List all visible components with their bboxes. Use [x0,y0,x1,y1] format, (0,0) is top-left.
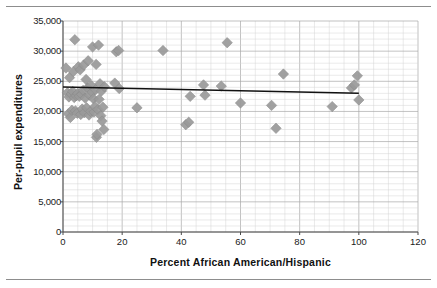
data-point-marker [327,101,337,111]
data-point-marker [278,69,288,79]
data-layer [63,21,418,232]
y-tick-label: 5,000 [9,197,61,207]
y-tick-label: 15,000 [9,137,61,147]
plot-area [63,21,418,232]
data-point-marker [70,34,80,44]
top-divider-rule [6,6,431,7]
data-point-marker [222,38,232,48]
data-point-marker [266,100,276,110]
data-point-marker [198,80,208,90]
trendline [63,87,359,93]
data-point-marker [132,103,142,113]
x-tick-label: 40 [161,236,201,247]
y-tick-label: 30,000 [9,46,61,56]
x-axis-tick-labels: 020406080100120 [63,236,437,250]
x-axis-title: Percent African American/Hispanic [63,256,418,268]
bottom-divider-rule [6,279,431,280]
x-tick-label: 100 [339,236,379,247]
y-tick-label: 10,000 [9,167,61,177]
y-tick-label: 20,000 [9,106,61,116]
x-tick-label: 0 [43,236,83,247]
x-tick-label: 60 [221,236,261,247]
y-tick-label: 35,000 [9,16,61,26]
x-tick-label: 120 [398,236,437,247]
x-tick-label: 80 [280,236,320,247]
data-point-marker [352,71,362,81]
y-tick-label: 25,000 [9,76,61,86]
plot-wrapper [63,21,418,232]
data-point-marker [158,45,168,55]
x-tick-label: 20 [102,236,142,247]
data-point-marker [271,123,281,133]
data-point-marker [354,95,364,105]
data-point-marker [235,98,245,108]
data-point-marker [200,90,210,100]
figure-container: Per-pupil expenditures 05,00010,00015,00… [0,0,437,288]
data-point-marker [185,91,195,101]
